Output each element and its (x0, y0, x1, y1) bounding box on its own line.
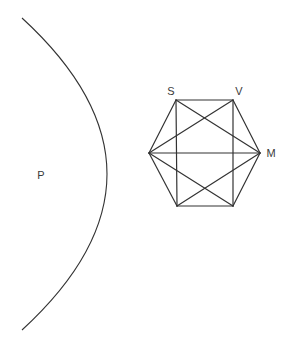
edge-bottom-left-right (177, 153, 260, 206)
label-v: V (235, 86, 242, 97)
label-m: M (266, 148, 275, 159)
label-p: P (37, 170, 44, 181)
circle-arc (22, 18, 107, 330)
edge-top-left-right (176, 100, 260, 153)
hexagon-graph (149, 100, 260, 206)
edge-bottom-right-left (149, 153, 233, 206)
edge-bottom-left-left (149, 153, 177, 206)
edge-top-right-left (149, 100, 233, 153)
label-s: S (167, 86, 174, 97)
